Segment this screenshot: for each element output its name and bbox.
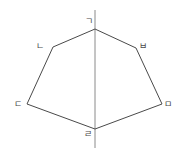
hexagon-diagram: ㄱ ㄴ ㄷ ㄹ ㅁ ㅂ — [0, 0, 181, 162]
vertex-label-n: ㄴ — [36, 42, 44, 51]
vertex-label-g: ㄱ — [85, 17, 93, 26]
vertex-label-b: ㅂ — [139, 42, 147, 51]
vertex-label-r: ㄹ — [84, 130, 92, 139]
vertex-label-d: ㄷ — [14, 100, 22, 109]
vertex-label-m: ㅁ — [164, 100, 172, 109]
